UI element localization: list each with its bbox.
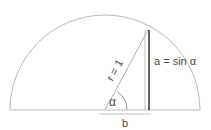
diagram-canvas: r = 1 a = sin α α b bbox=[0, 0, 211, 130]
angle-arc-marker bbox=[117, 91, 127, 110]
base-label: b bbox=[122, 117, 128, 129]
angle-label: α bbox=[109, 95, 116, 109]
trigonometry-diagram: r = 1 a = sin α α b bbox=[0, 0, 211, 130]
sine-label: a = sin α bbox=[154, 55, 197, 67]
